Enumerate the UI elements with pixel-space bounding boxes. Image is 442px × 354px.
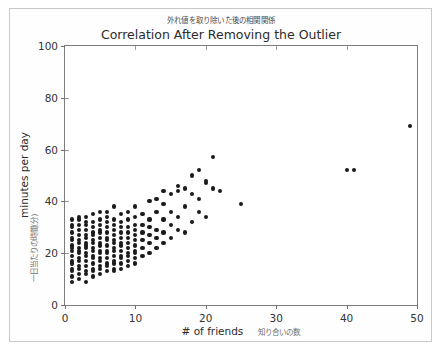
scatter-point bbox=[112, 233, 116, 237]
scatter-point bbox=[105, 220, 109, 224]
scatter-point bbox=[133, 233, 137, 237]
scatter-point bbox=[84, 215, 88, 219]
scatter-point bbox=[147, 241, 151, 245]
y-tick-mark-inner bbox=[65, 98, 69, 99]
scatter-point bbox=[105, 210, 109, 214]
scatter-point bbox=[183, 186, 187, 190]
scatter-point bbox=[161, 230, 165, 234]
y-axis-label: minutes per day bbox=[18, 132, 30, 218]
x-tick-mark bbox=[206, 305, 207, 309]
scatter-point bbox=[91, 261, 95, 265]
scatter-point bbox=[176, 228, 180, 232]
y-tick-label: 0 bbox=[51, 299, 58, 311]
scatter-point bbox=[84, 280, 88, 284]
y-tick-label: 40 bbox=[45, 195, 58, 207]
plot-area: 020406080100 01020304050 bbox=[64, 45, 418, 306]
scatter-point bbox=[147, 251, 151, 255]
scatter-point bbox=[126, 259, 130, 263]
y-tick-label: 60 bbox=[45, 144, 58, 156]
scatter-point bbox=[140, 230, 144, 234]
scatter-point bbox=[140, 246, 144, 250]
scatter-point bbox=[176, 189, 180, 193]
scatter-chart-figure: 外れ値を取り除いた後の相関関係 Correlation After Removi… bbox=[0, 0, 442, 354]
scatter-point bbox=[126, 236, 130, 240]
scatter-point bbox=[84, 264, 88, 268]
scatter-point bbox=[147, 233, 151, 237]
scatter-point bbox=[70, 236, 74, 240]
scatter-point bbox=[211, 186, 215, 190]
scatter-point bbox=[91, 230, 95, 234]
scatter-point bbox=[126, 246, 130, 250]
scatter-point bbox=[98, 223, 102, 227]
scatter-point bbox=[105, 269, 109, 273]
x-axis-label: # of friends bbox=[182, 325, 244, 337]
scatter-point bbox=[70, 243, 74, 247]
scatter-point bbox=[91, 220, 95, 224]
y-tick-label: 100 bbox=[38, 40, 58, 52]
scatter-point bbox=[91, 225, 95, 229]
scatter-point bbox=[119, 236, 123, 240]
scatter-point bbox=[126, 264, 130, 268]
scatter-point bbox=[126, 241, 130, 245]
scatter-point bbox=[133, 228, 137, 232]
scatter-point bbox=[119, 267, 123, 271]
scatter-point bbox=[105, 230, 109, 234]
scatter-point bbox=[169, 223, 173, 227]
scatter-point bbox=[77, 223, 81, 227]
scatter-point bbox=[197, 197, 201, 201]
scatter-point bbox=[98, 217, 102, 221]
scatter-point bbox=[70, 280, 74, 284]
x-axis-label-japanese: 知り合いの数 bbox=[258, 328, 300, 337]
scatter-point bbox=[133, 261, 137, 265]
scatter-point bbox=[133, 256, 137, 260]
scatter-point bbox=[183, 204, 187, 208]
x-tick-mark bbox=[417, 305, 418, 309]
scatter-points-layer bbox=[65, 46, 417, 305]
scatter-point bbox=[105, 225, 109, 229]
scatter-point bbox=[112, 204, 116, 208]
scatter-point bbox=[169, 192, 173, 196]
x-tick-mark bbox=[65, 305, 66, 309]
scatter-point bbox=[70, 223, 74, 227]
y-tick-mark bbox=[61, 46, 65, 47]
scatter-point bbox=[126, 225, 130, 229]
scatter-point bbox=[211, 155, 215, 159]
scatter-point bbox=[98, 236, 102, 240]
scatter-point bbox=[105, 261, 109, 265]
scatter-point bbox=[169, 210, 173, 214]
y-tick-label: 20 bbox=[45, 247, 58, 259]
scatter-point bbox=[70, 230, 74, 234]
scatter-point bbox=[112, 217, 116, 221]
y-tick-mark-inner bbox=[65, 253, 69, 254]
scatter-point bbox=[345, 168, 349, 172]
scatter-point bbox=[204, 179, 208, 183]
scatter-point bbox=[119, 220, 123, 224]
scatter-point bbox=[154, 228, 158, 232]
scatter-point bbox=[91, 274, 95, 278]
scatter-point bbox=[112, 228, 116, 232]
scatter-point bbox=[126, 230, 130, 234]
scatter-point bbox=[190, 220, 194, 224]
scatter-point bbox=[112, 254, 116, 258]
scatter-point bbox=[105, 249, 109, 253]
scatter-point bbox=[126, 217, 130, 221]
scatter-point bbox=[98, 249, 102, 253]
scatter-point bbox=[84, 228, 88, 232]
scatter-point bbox=[169, 236, 173, 240]
scatter-point bbox=[176, 215, 180, 219]
scatter-point bbox=[119, 225, 123, 229]
scatter-point bbox=[154, 197, 158, 201]
scatter-point bbox=[70, 254, 74, 258]
x-tick-mark-inner bbox=[347, 46, 348, 50]
scatter-point bbox=[218, 189, 222, 193]
page-background: 外れ値を取り除いた後の相関関係 Correlation After Removi… bbox=[0, 0, 442, 354]
scatter-point bbox=[98, 272, 102, 276]
scatter-point bbox=[239, 202, 243, 206]
scatter-point bbox=[183, 230, 187, 234]
scatter-point bbox=[161, 189, 165, 193]
scatter-point bbox=[147, 225, 151, 229]
y-tick-mark-inner bbox=[65, 150, 69, 151]
scatter-point bbox=[197, 168, 201, 172]
scatter-point bbox=[204, 215, 208, 219]
scatter-point bbox=[140, 212, 144, 216]
